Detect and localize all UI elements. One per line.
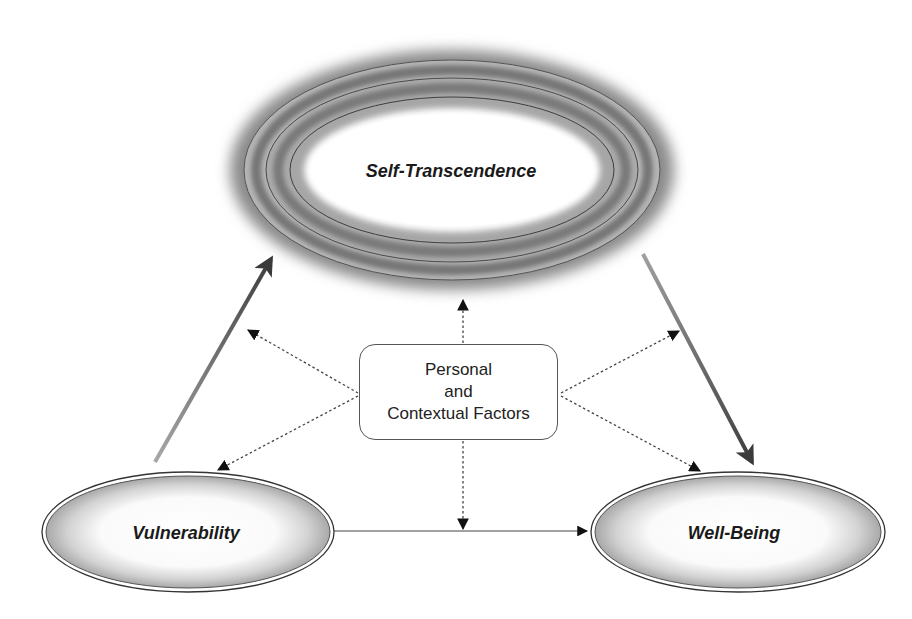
factors-line-3: Contextual Factors: [387, 403, 530, 425]
personal-contextual-factors-box: Personal and Contextual Factors: [359, 344, 558, 440]
vulnerability-label: Vulnerability: [132, 523, 240, 544]
well-being-label: Well-Being: [688, 523, 781, 544]
dotted-arrow-upper-left: [248, 330, 358, 393]
self-transcendence-label: Self-Transcendence: [366, 161, 537, 182]
arrow-vulnerability-to-self-transcendence: [155, 259, 271, 462]
factors-line-1: Personal: [425, 359, 492, 381]
arrow-self-transcendence-to-well-being: [643, 254, 752, 462]
dotted-arrow-lower-right: [561, 396, 700, 471]
dotted-arrow-lower-left: [218, 396, 358, 470]
factors-line-2: and: [444, 381, 472, 403]
dotted-arrow-upper-right: [561, 331, 679, 393]
